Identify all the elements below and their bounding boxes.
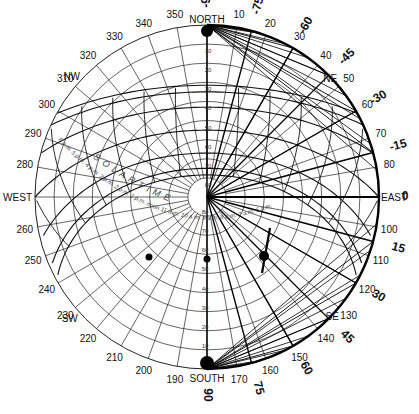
azimuth-label: 290	[25, 128, 42, 139]
azimuth-label: 130	[340, 310, 357, 321]
azimuth-line	[75, 209, 192, 307]
pole-fan-line	[207, 25, 329, 75]
protractor-label: 15	[390, 239, 407, 256]
azimuth-label: 140	[318, 333, 335, 344]
altitude-label: 40	[205, 105, 212, 111]
azimuth-label: 100	[381, 224, 398, 235]
altitude-label: 70	[205, 163, 212, 169]
azimuth-label: 200	[135, 365, 152, 376]
vertical-shading-line	[207, 242, 373, 369]
protractor-label: 90	[201, 388, 215, 402]
azimuth-label: 330	[106, 31, 123, 42]
azimuth-label: 10	[234, 9, 246, 20]
azimuth-line	[121, 48, 197, 180]
azimuth-label: 280	[16, 159, 33, 170]
azimuth-line	[96, 212, 194, 329]
azimuth-label: 160	[262, 365, 279, 376]
azimuth-line	[177, 28, 204, 179]
altitude-label: 30	[205, 86, 212, 92]
azimuth-label: 190	[167, 374, 184, 385]
altitude-label: 70	[202, 228, 209, 234]
altitude-label: 30	[202, 305, 209, 311]
intercardinal-label-sw: SW	[62, 313, 79, 324]
sun-position-dot	[146, 254, 153, 261]
azimuth-line	[222, 209, 339, 307]
azimuth-line	[219, 65, 317, 182]
altitude-label: 60	[205, 144, 212, 150]
azimuth-label: 340	[135, 18, 152, 29]
protractor-label: -15	[388, 136, 409, 154]
azimuth-label: 220	[80, 333, 97, 344]
sun-position-dot	[204, 256, 211, 263]
protractor-label: 0	[402, 189, 409, 203]
azimuth-line	[148, 215, 200, 359]
azimuth-label: 320	[80, 50, 97, 61]
altitude-label: 40	[202, 286, 209, 292]
azimuth-label: 70	[375, 128, 387, 139]
azimuth-label: 240	[38, 284, 55, 295]
altitude-label: 20	[202, 324, 209, 330]
altitude-label: 60	[202, 247, 209, 253]
cardinal-label-south: SOUTH	[190, 373, 225, 384]
azimuth-label: 50	[343, 73, 355, 84]
azimuth-line	[214, 215, 266, 359]
intercardinal-label-se: SE	[326, 311, 340, 322]
azimuth-label: 110	[373, 255, 389, 266]
hour-line	[175, 88, 180, 177]
azimuth-label: 250	[25, 255, 42, 266]
altitude-label: 10	[205, 48, 212, 54]
solar-time-curve	[60, 132, 205, 212]
pole-fan-line	[207, 25, 360, 119]
protractor-label: -90	[199, 0, 213, 8]
sun-path-chart: 1020304050607080100110120130140150160170…	[0, 0, 419, 414]
chart-labels: 1020304050607080100110120130140150160170…	[3, 0, 409, 402]
azimuth-label: 210	[106, 352, 123, 363]
protractor-radial	[207, 197, 252, 363]
azimuth-line	[58, 207, 190, 283]
hour-line	[233, 88, 238, 177]
vertical-shading-line	[207, 25, 373, 152]
protractor-label: -45	[335, 45, 357, 67]
protractor-radial	[207, 197, 373, 242]
azimuth-line	[219, 212, 317, 329]
altitude-label: 50	[202, 266, 209, 272]
azimuth-label: 260	[16, 224, 33, 235]
south-pole-marker	[200, 356, 214, 370]
azimuth-label: 20	[265, 18, 277, 29]
azimuth-label: 350	[167, 9, 184, 20]
shading-indicator	[262, 228, 270, 273]
cardinal-label-west: WEST	[3, 192, 32, 203]
altitude-label: 10	[202, 343, 209, 349]
altitude-label: 20	[205, 67, 212, 73]
protractor-label: 75	[251, 380, 268, 397]
azimuth-line	[177, 216, 204, 367]
pole-fan-line	[207, 25, 371, 144]
intercardinal-label-nw: NW	[63, 71, 80, 82]
azimuth-line	[121, 214, 197, 346]
protractor-label: -75	[248, 0, 266, 16]
north-pole-marker	[201, 25, 213, 37]
azimuth-label: 170	[231, 374, 248, 385]
intercardinal-label-ne: NE	[323, 73, 337, 84]
hour-line	[51, 129, 85, 223]
altitude-label: 80	[202, 209, 209, 215]
vertical-shading-line	[207, 25, 356, 111]
protractor-radial	[207, 152, 373, 197]
altitude-label: 80	[205, 182, 212, 188]
azimuth-line	[38, 200, 189, 227]
azimuth-label: 300	[38, 99, 55, 110]
azimuth-line	[225, 138, 369, 190]
azimuth-label: 40	[320, 50, 332, 61]
protractor-label: 45	[338, 327, 358, 347]
cardinal-label-north: NORTH	[189, 14, 224, 25]
azimuth-label: 80	[384, 159, 396, 170]
altitude-label: 50	[205, 125, 212, 131]
